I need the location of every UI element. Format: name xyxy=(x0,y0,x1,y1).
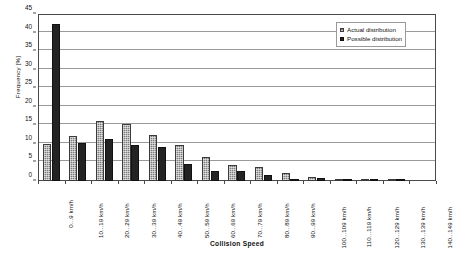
bar-possible-distribution xyxy=(158,147,166,182)
y-axis-tick-mark xyxy=(33,180,36,181)
x-axis-tick-label: 30...39 km/h xyxy=(150,203,157,238)
x-axis-tick-mark xyxy=(330,181,331,184)
x-axis-tick-mark xyxy=(144,181,145,184)
bar-group xyxy=(197,14,224,181)
x-axis-tick-mark xyxy=(383,181,384,184)
bar-group xyxy=(91,14,118,181)
y-axis-tick-mark xyxy=(33,50,36,51)
bar-possible-distribution xyxy=(131,145,139,181)
bar-actual-distribution xyxy=(149,135,157,181)
bar-group xyxy=(144,14,171,181)
x-axis-tick-label: 50...59 km/h xyxy=(203,203,210,238)
y-axis-tick-label: 10 xyxy=(25,133,32,140)
bar-group xyxy=(277,14,304,181)
x-axis-tick-mark xyxy=(65,181,66,184)
x-axis-tick-mark xyxy=(171,181,172,184)
x-axis-tick-mark xyxy=(409,181,410,184)
chart-legend: Actual distributionPossible distribution xyxy=(336,22,406,47)
y-axis-tick-mark xyxy=(33,87,36,88)
x-axis-tick-marks xyxy=(38,181,436,185)
x-axis-tick-label: 40...49 km/h xyxy=(177,203,184,238)
y-axis-tick-label: 35 xyxy=(25,41,32,48)
bar-actual-distribution xyxy=(175,145,183,181)
legend-item: Actual distribution xyxy=(340,25,402,34)
legend-swatch-possible-icon xyxy=(340,37,344,41)
bar-actual-distribution xyxy=(228,165,236,181)
bar-actual-distribution xyxy=(122,124,130,181)
x-axis-tick-mark xyxy=(277,181,278,184)
x-axis-tick-label: 70...79 km/h xyxy=(256,203,263,238)
bar-actual-distribution xyxy=(202,157,210,181)
x-axis-tick-mark xyxy=(91,181,92,184)
x-axis-tick-mark xyxy=(224,181,225,184)
x-axis-tick-mark xyxy=(38,181,39,184)
bar-group xyxy=(250,14,277,181)
legend-label: Possible distribution xyxy=(347,35,402,42)
y-axis-tick-label: 5 xyxy=(28,152,32,159)
bar-possible-distribution xyxy=(211,171,219,181)
bar-possible-distribution xyxy=(184,164,192,181)
bar-actual-distribution xyxy=(255,167,263,181)
bar-actual-distribution xyxy=(96,121,104,181)
y-axis-tick-mark xyxy=(33,105,36,106)
legend-swatch-actual-icon xyxy=(340,28,344,32)
bar-possible-distribution xyxy=(52,24,60,181)
bar-group xyxy=(409,14,436,181)
y-axis-tick-label: 40 xyxy=(25,22,32,29)
bar-possible-distribution xyxy=(78,143,86,181)
y-axis-tick-mark xyxy=(33,124,36,125)
x-axis-tick-label: 20...29 km/h xyxy=(124,203,131,238)
y-axis-tick-label: 20 xyxy=(25,96,32,103)
x-axis-tick-mark xyxy=(356,181,357,184)
y-axis-tick-label: 0 xyxy=(28,171,32,178)
bar-group xyxy=(224,14,251,181)
x-axis-tick-label: 80...89 km/h xyxy=(283,203,290,238)
collision-speed-bar-chart: Frequency [%] 051015202530354045 0...9 k… xyxy=(0,0,453,262)
bar-group xyxy=(118,14,145,181)
x-axis-tick-label: 90...99 km/h xyxy=(309,203,316,238)
y-axis-tick-label: 30 xyxy=(25,59,32,66)
y-axis-tick-mark xyxy=(33,68,36,69)
bar-actual-distribution xyxy=(282,173,290,181)
bar-group xyxy=(38,14,65,181)
y-axis-tick-label: 15 xyxy=(25,115,32,122)
bar-possible-distribution xyxy=(237,171,245,181)
x-axis-tick-mark xyxy=(303,181,304,184)
x-axis-tick-mark xyxy=(250,181,251,184)
bar-possible-distribution xyxy=(105,139,113,181)
legend-label: Actual distribution xyxy=(347,26,396,33)
x-axis-tick-label: 60...69 km/h xyxy=(230,203,237,238)
bar-actual-distribution xyxy=(43,144,51,181)
x-axis-tick-mark xyxy=(118,181,119,184)
y-axis-tick-mark xyxy=(33,161,36,162)
x-axis-tick-label: 140...149 km/h xyxy=(446,207,453,249)
y-axis-tick-label: 45 xyxy=(25,4,32,11)
bar-group xyxy=(171,14,198,181)
y-axis-tick-mark xyxy=(33,31,36,32)
x-axis-tick-mark xyxy=(436,181,437,184)
x-axis-tick-labels: 0...9 km/h10...19 km/h20...29 km/h30...3… xyxy=(38,186,436,238)
y-axis-tick-labels: 051015202530354045 xyxy=(0,14,36,181)
x-axis-tick-mark xyxy=(197,181,198,184)
bar-actual-distribution xyxy=(69,136,77,181)
y-axis-tick-mark xyxy=(33,142,36,143)
y-axis-tick-mark xyxy=(33,13,36,14)
legend-item: Possible distribution xyxy=(340,34,402,43)
y-axis-tick-label: 25 xyxy=(25,78,32,85)
bar-group xyxy=(303,14,330,181)
x-axis-tick-label: 10...19 km/h xyxy=(97,203,104,238)
x-axis-title: Collision Speed xyxy=(38,240,436,247)
x-axis-tick-label: 0...9 km/h xyxy=(67,200,74,228)
bar-group xyxy=(65,14,92,181)
